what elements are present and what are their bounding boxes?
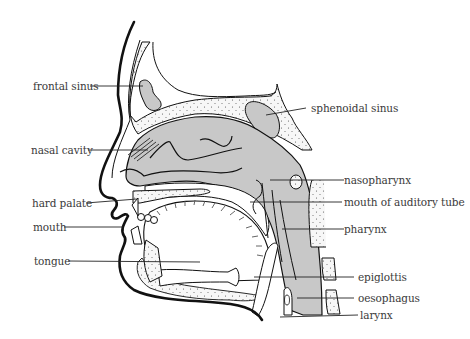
label-oesophagus: oesophagus	[358, 292, 420, 304]
label-nasopharynx: nasopharynx	[344, 174, 411, 186]
label-mouth-of-auditory-tube: mouth of auditory tube	[344, 196, 465, 208]
vertebral-column	[309, 180, 326, 247]
vertebra-3	[326, 290, 340, 314]
label-tongue: tongue	[34, 255, 70, 267]
label-hard-palate: hard palate	[32, 197, 92, 209]
label-nasal-cavity: nasal cavity	[31, 144, 93, 156]
frontal-bone-outline	[153, 42, 276, 97]
larynx-shape	[284, 288, 292, 315]
frontal-sinus-shape	[139, 80, 161, 110]
anatomy-diagram	[0, 0, 470, 339]
label-mouth: mouth	[33, 221, 67, 233]
atlas-vertebra	[290, 175, 302, 189]
label-larynx: larynx	[360, 309, 393, 321]
label-frontal-sinus: frontal sinus	[33, 80, 99, 92]
label-sphenoidal-sinus: sphenoidal sinus	[311, 102, 398, 114]
label-pharynx: pharynx	[344, 223, 387, 235]
label-epiglottis: epiglottis	[358, 271, 407, 283]
